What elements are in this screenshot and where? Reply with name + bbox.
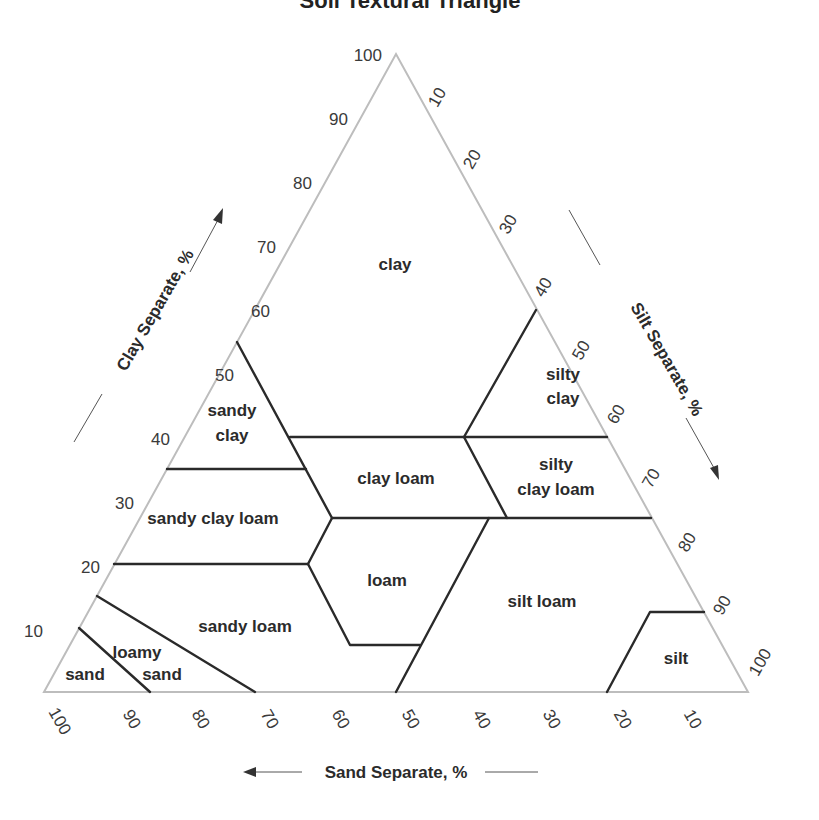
svg-text:80: 80: [188, 706, 214, 732]
svg-text:20: 20: [81, 558, 100, 577]
sand-axis-title: Sand Separate, %: [243, 763, 538, 782]
silt-axis-title: Silt Separate, %: [569, 210, 719, 480]
svg-text:90: 90: [119, 706, 145, 732]
sand-axis-ticks: 100 90 80 70 60 50 40 30 20 10: [44, 704, 705, 738]
svg-text:70: 70: [257, 706, 283, 732]
svg-text:10: 10: [24, 622, 43, 641]
svg-text:80: 80: [293, 174, 312, 193]
svg-text:90: 90: [329, 110, 348, 129]
svg-text:10: 10: [680, 706, 706, 732]
svg-text:10: 10: [424, 84, 450, 110]
label-silty-clay-loam-2: clay loam: [517, 480, 595, 499]
label-loamy-sand-2: sand: [142, 665, 182, 684]
label-silt-loam: silt loam: [508, 592, 577, 611]
svg-text:50: 50: [398, 706, 424, 732]
label-silty-clay-2: clay: [546, 389, 580, 408]
svg-text:80: 80: [674, 529, 700, 555]
svg-text:40: 40: [469, 706, 495, 732]
svg-text:70: 70: [257, 238, 276, 257]
label-sand: sand: [65, 665, 105, 684]
svg-text:100: 100: [44, 704, 75, 738]
triangle-outline: [44, 54, 748, 692]
label-clay-loam: clay loam: [357, 469, 435, 488]
label-silt: silt: [664, 649, 689, 668]
silt-axis-ticks: 10 20 30 40 50 60 70 80 90 100: [424, 84, 775, 679]
chart-title: Soil Textural Triangle: [300, 0, 521, 13]
soil-texture-triangle: Soil Textural Triangle 10 20 30: [0, 0, 819, 820]
label-sandy-clay-2: clay: [215, 426, 249, 445]
svg-text:90: 90: [709, 592, 735, 618]
svg-text:60: 60: [603, 401, 629, 427]
label-loam: loam: [367, 571, 407, 590]
label-sandy-loam: sandy loam: [198, 617, 292, 636]
svg-text:50: 50: [568, 337, 594, 363]
svg-text:30: 30: [495, 211, 521, 237]
svg-text:40: 40: [151, 430, 170, 449]
svg-text:30: 30: [115, 494, 134, 513]
clay-axis-ticks: 10 20 30 40 50 60 70 80 90 100: [24, 46, 382, 641]
label-clay: clay: [378, 255, 412, 274]
label-silty-clay: silty: [546, 365, 581, 384]
svg-text:30: 30: [539, 706, 565, 732]
label-sandy-clay-loam: sandy clay loam: [147, 509, 278, 528]
svg-text:60: 60: [251, 302, 270, 321]
svg-text:20: 20: [610, 706, 636, 732]
svg-text:20: 20: [459, 146, 485, 172]
svg-text:60: 60: [328, 706, 354, 732]
class-boundaries: [79, 310, 704, 692]
label-sandy-clay: sandy: [207, 401, 257, 420]
svg-text:Sand Separate, %: Sand Separate, %: [325, 763, 468, 782]
svg-text:Silt Separate, %: Silt Separate, %: [627, 299, 707, 419]
label-loamy-sand: loamy: [112, 643, 162, 662]
svg-text:50: 50: [215, 366, 234, 385]
label-silty-clay-loam: silty: [539, 455, 574, 474]
svg-text:100: 100: [354, 46, 382, 65]
svg-text:40: 40: [530, 274, 556, 300]
svg-text:Clay Separate, %: Clay Separate, %: [113, 246, 198, 374]
svg-text:100: 100: [745, 645, 776, 679]
svg-text:70: 70: [638, 465, 664, 491]
